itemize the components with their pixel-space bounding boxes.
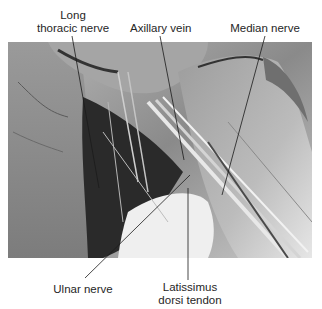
label-ulnar-nerve: Ulnar nerve <box>53 283 113 296</box>
label-median-nerve: Median nerve <box>230 22 300 35</box>
dissection-photo <box>8 42 312 258</box>
label-long-thoracic-line1: Long <box>37 9 109 22</box>
label-latissimus-dorsi-tendon: Latissimus dorsi tendon <box>158 281 222 307</box>
label-latissimus-line1: Latissimus <box>158 281 222 294</box>
label-axillary-vein: Axillary vein <box>130 22 190 35</box>
label-long-thoracic-line2: thoracic nerve <box>37 22 109 35</box>
label-latissimus-line2: dorsi tendon <box>158 294 222 307</box>
label-long-thoracic-nerve: Long thoracic nerve <box>37 9 109 35</box>
photo-illustration <box>8 42 312 258</box>
